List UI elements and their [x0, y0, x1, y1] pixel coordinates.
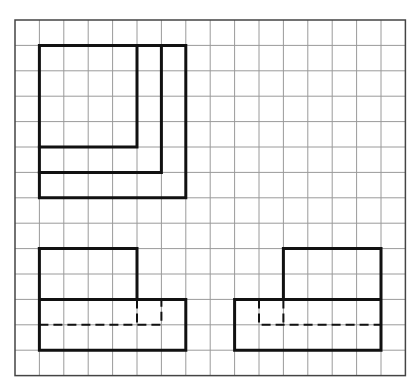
hidden-line — [259, 299, 381, 324]
hidden-line — [39, 299, 161, 324]
visible-edge — [39, 45, 161, 172]
projection-diagram — [0, 0, 416, 386]
